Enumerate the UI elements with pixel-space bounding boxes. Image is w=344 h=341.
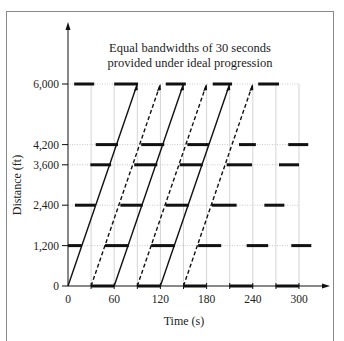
chart-title-line-2: provided under ideal progression <box>108 56 274 70</box>
y-tick-label: 3,600 <box>33 159 59 172</box>
trajectory-line-dashed <box>137 84 206 286</box>
x-tick-label: 60 <box>108 293 120 305</box>
trajectory-line-dashed <box>184 84 253 286</box>
y-tick-label: 0 <box>53 280 59 292</box>
y-axis-arrow-icon <box>66 22 71 30</box>
trajectory-line-solid <box>68 84 137 286</box>
x-axis-label: Time (s) <box>164 314 205 328</box>
x-tick-label: 240 <box>244 293 262 305</box>
chart-title-line-1: Equal bandwidths of 30 seconds <box>109 41 271 55</box>
trajectory-line-dashed <box>91 84 160 286</box>
y-tick-label: 6,000 <box>33 78 59 91</box>
y-tick-label: 1,200 <box>33 240 59 253</box>
x-tick-label: 120 <box>152 293 170 305</box>
y-tick-label: 2,400 <box>33 199 59 212</box>
green-bands <box>68 84 311 286</box>
x-tick-label: 0 <box>65 293 71 305</box>
arrowhead-icon <box>249 84 253 91</box>
x-axis-arrow-icon <box>322 284 330 289</box>
arrowhead-icon <box>157 84 161 91</box>
y-axis-label: Distance (ft) <box>10 155 24 215</box>
grid <box>62 84 299 286</box>
y-tick-label: 4,200 <box>33 139 59 152</box>
trajectory-line-solid <box>114 84 183 286</box>
x-tick-label: 300 <box>290 293 308 305</box>
x-tick-label: 180 <box>198 293 216 305</box>
trajectory-line-solid <box>160 84 229 286</box>
arrowhead-icon <box>203 84 207 91</box>
